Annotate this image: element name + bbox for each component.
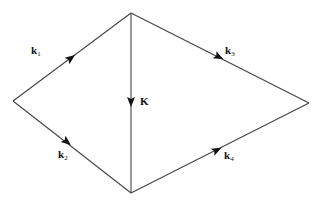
label-k2: k2 [58,149,68,162]
label-k2-sub: 2 [64,154,68,162]
label-k3: k3 [225,45,235,58]
label-K: K [140,96,149,107]
edge-k2 [13,101,131,193]
arrow-k3-icon [213,51,226,63]
momentum-diagram [0,0,318,205]
label-k1: k1 [31,45,41,58]
label-k1-sub: 1 [37,50,41,58]
arrow-k4-icon [211,144,224,156]
label-k3-sub: 3 [231,50,235,58]
label-K-main: K [140,95,149,107]
label-k4: k4 [224,150,234,163]
arrow-k1-icon [65,52,78,64]
label-k4-sub: 4 [230,155,234,163]
